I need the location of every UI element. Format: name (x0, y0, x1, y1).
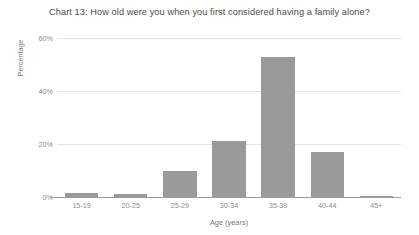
bar[interactable] (212, 141, 245, 197)
y-axis-title: Percentage (16, 18, 25, 98)
bar-series (57, 38, 401, 197)
x-tick-label: 30-34 (204, 201, 253, 210)
bar[interactable] (65, 193, 98, 197)
bar-slot (352, 38, 401, 197)
x-axis-tick-labels: 15-1920-2525-2930-3435-3940-4445+ (57, 201, 401, 210)
x-tick-label: 25-29 (155, 201, 204, 210)
x-tick-label: 45+ (352, 201, 401, 210)
bar-slot (155, 38, 204, 197)
y-tick-label: 20% (39, 140, 53, 149)
bar[interactable] (261, 57, 294, 197)
chart-title: Chart 13: How old were you when you firs… (0, 7, 419, 17)
chart-container: Chart 13: How old were you when you firs… (0, 0, 419, 235)
bar[interactable] (114, 194, 147, 197)
bar-slot (57, 38, 106, 197)
bar[interactable] (311, 152, 344, 197)
y-tick-label: 60% (39, 34, 53, 43)
x-tick-label: 35-39 (254, 201, 303, 210)
bar[interactable] (163, 171, 196, 198)
x-tick-label: 40-44 (303, 201, 352, 210)
bar[interactable] (360, 196, 393, 197)
y-axis-tick-labels: 0%20%40%60% (28, 38, 53, 197)
bar-slot (204, 38, 253, 197)
y-tick-label: 40% (39, 87, 53, 96)
bar-slot (106, 38, 155, 197)
x-axis-title: Age (years) (57, 218, 401, 227)
bar-slot (254, 38, 303, 197)
x-tick-label: 20-25 (106, 201, 155, 210)
x-tick-label: 15-19 (57, 201, 106, 210)
bar-slot (303, 38, 352, 197)
x-axis-line (51, 197, 401, 198)
